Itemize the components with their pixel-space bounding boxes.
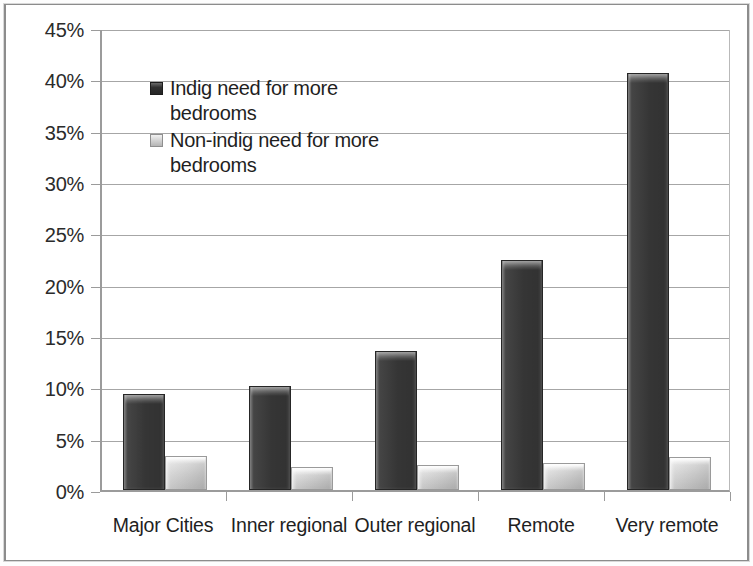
y-axis-tick-mark (91, 492, 100, 493)
legend-entry-indigenous: Indig need for more bedrooms (150, 76, 400, 126)
y-axis-tick-mark (91, 30, 100, 31)
bar-non-indigenous (165, 456, 207, 490)
x-axis-tick-label: Major Cities (113, 514, 214, 537)
bar-indigenous (249, 386, 291, 490)
y-axis-tick-label: 40% (45, 70, 84, 93)
x-axis-ticks (100, 492, 730, 502)
y-axis-tick-label: 25% (45, 224, 84, 247)
bar-non-indigenous (543, 463, 585, 490)
bar-non-indigenous (417, 465, 459, 490)
y-axis-tick-mark (91, 338, 100, 339)
y-axis-tick-label: 0% (56, 481, 84, 504)
bar-indigenous (627, 73, 669, 490)
x-axis-tick-mark (604, 492, 605, 501)
bar-group (627, 30, 711, 490)
y-axis-tick-label: 35% (45, 121, 84, 144)
legend-entry-non-indigenous: Non-indig need for more bedrooms (150, 128, 400, 178)
y-axis-tick-label: 20% (45, 275, 84, 298)
x-axis-tick-mark (226, 492, 227, 501)
y-axis-tick-mark (91, 81, 100, 82)
x-axis-tick-label: Remote (507, 514, 574, 537)
x-axis-labels: Major CitiesInner regionalOuter regional… (100, 502, 730, 542)
legend-swatch-icon-indigenous (150, 82, 163, 95)
bar-group (501, 30, 585, 490)
y-axis-tick-mark (91, 235, 100, 236)
x-axis-tick-mark (730, 492, 731, 501)
x-axis-tick-label: Inner regional (231, 514, 347, 537)
legend-label-indigenous: Indig need for more bedrooms (170, 76, 338, 126)
y-axis-tick-mark (91, 389, 100, 390)
y-axis-tick-mark (91, 441, 100, 442)
y-axis-tick-label: 10% (45, 378, 84, 401)
bar-non-indigenous (669, 457, 711, 490)
y-axis-tick-mark (91, 287, 100, 288)
bar-indigenous (123, 394, 165, 491)
y-axis-tick-label: 30% (45, 173, 84, 196)
x-axis-tick-label: Outer regional (355, 514, 476, 537)
legend-label-non-indigenous: Non-indig need for more bedrooms (170, 128, 379, 178)
y-axis-tick-label: 45% (45, 19, 84, 42)
y-axis-tick-mark (91, 133, 100, 134)
y-axis-tick-label: 15% (45, 327, 84, 350)
bar-indigenous (375, 351, 417, 490)
y-axis-tick-label: 5% (56, 429, 84, 452)
chart-container: 0%5%10%15%20%25%30%35%40%45% Major Citie… (0, 0, 753, 566)
y-axis-labels: 0%5%10%15%20%25%30%35%40%45% (0, 0, 100, 522)
x-axis-tick-mark (352, 492, 353, 501)
chart-legend: Indig need for more bedrooms Non-indig n… (150, 76, 400, 180)
bar-indigenous (501, 260, 543, 490)
y-axis-tick-mark (91, 184, 100, 185)
x-axis-tick-label: Very remote (616, 514, 719, 537)
bar-non-indigenous (291, 467, 333, 490)
legend-swatch-icon-non-indigenous (150, 134, 163, 147)
x-axis-tick-mark (478, 492, 479, 501)
